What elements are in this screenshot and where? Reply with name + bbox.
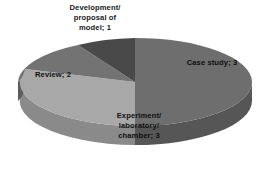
pie-chart: Development/ proposal of model; 1 Case s… (0, 0, 273, 189)
pie-chart-graphic (0, 0, 273, 189)
